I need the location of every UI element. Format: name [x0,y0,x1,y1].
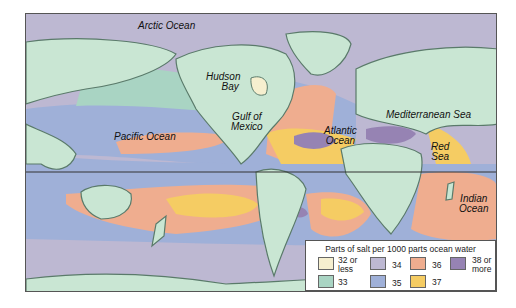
label-arctic-ocean: Arctic Ocean [138,21,195,31]
label-pacific-ocean: Pacific Ocean [114,132,176,142]
legend-label-34: 34 [392,261,401,270]
label-hudson-bay: Hudson Bay [206,72,240,92]
label-gulf-of-mexico: Gulf of Mexico [231,112,263,132]
legend-swatch-33 [318,275,334,288]
label-indian-ocean: Indian Ocean [459,194,488,214]
legend-label-37: 37 [432,278,441,287]
legend-swatch-37 [410,275,426,288]
label-red-sea: Red Sea [431,142,449,162]
legend-label-36: 36 [432,261,441,270]
legend-swatch-32 [318,257,334,270]
salinity-legend: Parts of salt per 1000 parts ocean water… [305,240,496,291]
label-atlantic-ocean: Atlantic Ocean [324,126,357,146]
legend-swatch-35 [370,275,386,288]
legend-label-38: 38 ormore [472,256,491,273]
legend-label-32: 32 orless [338,256,357,273]
legend-swatch-34 [370,257,386,270]
label-mediterranean-sea: Mediterranean Sea [386,110,471,120]
legend-label-35: 35 [392,279,401,288]
legend-swatch-36 [410,257,426,270]
legend-swatch-38 [450,257,466,270]
legend-label-33: 33 [338,278,347,287]
legend-title: Parts of salt per 1000 parts ocean water [306,244,495,254]
